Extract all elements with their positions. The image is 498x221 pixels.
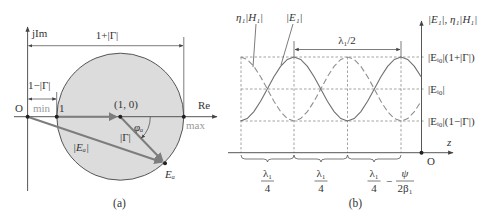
level-mid-label: |Eᵢ₀|: [428, 83, 445, 95]
e-curve-label: |E₁|: [286, 11, 303, 23]
level-min-label: |Eᵢ₀|(1−|Γ|): [428, 115, 475, 128]
segment-3-numerator: λ₁: [369, 167, 378, 179]
ea-dot: [163, 161, 167, 165]
center-label: (1, 0): [114, 98, 138, 111]
z-axis-label: z: [446, 136, 452, 148]
ea-magnitude-label: |Eₐ|: [73, 141, 89, 153]
offset-denominator: 2β₁: [398, 182, 413, 194]
max-label: max: [186, 119, 205, 131]
e-curve-leader: [281, 24, 293, 65]
gamma-magnitude-label: |Γ|: [120, 131, 131, 143]
z-origin-label: O: [427, 155, 435, 167]
min-dimension-label: 1−|Γ|: [28, 79, 50, 91]
brace-segment-1: [241, 155, 294, 162]
brace-segment-3: [348, 155, 402, 162]
h-curve-leader: [253, 24, 256, 67]
center-dot: [118, 115, 122, 119]
segment-1-numerator: λ₁: [263, 167, 272, 179]
h-curve-label: η₁|H₁|: [236, 11, 263, 23]
segment-3-denominator: 4: [371, 182, 377, 194]
total-dimension-label: 1+|Γ|: [96, 29, 118, 41]
imag-axis-label: jIm: [31, 27, 48, 39]
panel-b-caption: (b): [349, 197, 363, 210]
amplitude-axis-label: |E₁|, η₁|H₁|: [428, 13, 477, 25]
panel-b-standing-wave: λ₁ 4 λ₁ 4 λ₁ 4 − ψ 2β₁ η₁|H₁| |E₁| λ₁/2 …: [228, 11, 477, 210]
real-axis-label: Re: [198, 99, 210, 111]
panel-a-caption: (a): [113, 197, 126, 210]
offset-sign: −: [386, 175, 392, 187]
segment-2-numerator: λ₁: [316, 167, 325, 179]
origin-label: O: [15, 102, 23, 114]
point-one-dot: [55, 115, 59, 119]
brace-segment-2: [294, 155, 348, 162]
segment-1-denominator: 4: [265, 182, 271, 194]
standing-wave-figure: jIm 1+|Γ| 1−|Γ| O min 1 (1, 0) Re max φₐ…: [0, 0, 498, 221]
min-label: min: [33, 102, 51, 114]
panel-a-complex-plane: jIm 1+|Γ| 1−|Γ| O min 1 (1, 0) Re max φₐ…: [14, 27, 217, 210]
angle-label: φₐ: [134, 121, 143, 133]
point-one-label: 1: [59, 102, 65, 114]
offset-numerator: ψ: [402, 167, 409, 179]
origin-dot: [26, 115, 30, 119]
ea-point-label: Eₐ: [164, 168, 175, 180]
z-origin-dot: [420, 151, 424, 155]
segment-2-denominator: 4: [318, 182, 324, 194]
level-max-label: |Eᵢ₀|(1+|Γ|): [428, 51, 475, 64]
half-wavelength-label: λ₁/2: [338, 34, 356, 46]
